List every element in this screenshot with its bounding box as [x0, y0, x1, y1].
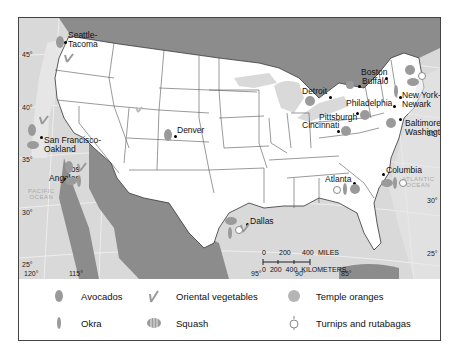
latitude-label: 35° [22, 156, 33, 163]
legend-label: Temple oranges [316, 291, 384, 302]
scale-tick: 0 [262, 249, 266, 256]
oriental-vegetables-icon [144, 289, 164, 303]
oriental-vegetables-icon [65, 54, 73, 62]
avocado-icon [164, 129, 172, 141]
avocado-icon [28, 124, 36, 136]
legend: Avocados Okra Oriental vegetables Squash… [18, 279, 441, 341]
squash-icon [27, 141, 39, 149]
latitude-label: 25° [22, 261, 33, 268]
pacific-ocean-label: PACIFICOCEAN [28, 188, 55, 200]
oriental-vegetables-icon [136, 107, 142, 112]
map-panel: Seattle-Tacoma San Francisco-Oakland Los… [18, 17, 441, 280]
latitude-label: 25° [427, 250, 438, 257]
legend-item-squash: Squash [144, 316, 208, 330]
latitude-label: 30° [427, 197, 438, 204]
okra-icon [394, 85, 398, 97]
scale-tick: 400 [286, 266, 298, 273]
turnip-icon [236, 227, 243, 234]
squash-icon [144, 316, 164, 330]
temple-orange-icon [305, 96, 315, 106]
avocado-icon [49, 289, 69, 303]
longitude-label: 115° [69, 270, 83, 277]
legend-label: Avocados [81, 291, 123, 302]
okra-icon [393, 177, 397, 189]
squash-icon [381, 179, 393, 187]
temple-orange-icon [360, 110, 370, 120]
avocado-icon [56, 36, 64, 48]
okra-icon [49, 316, 69, 330]
squash-icon [65, 177, 77, 185]
turnip-icon [334, 187, 341, 194]
legend-label: Turnips and rutabagas [316, 318, 411, 329]
legend-item-oriental-vegetables: Oriental vegetables [144, 289, 258, 303]
scale-tick: 0 [262, 266, 266, 273]
latitude-label: 30° [22, 209, 33, 216]
temple-orange-icon [386, 118, 396, 128]
latitude-label: 45° [22, 51, 33, 58]
atlantic-ocean-label: ATLANTICOCEAN [402, 176, 435, 188]
temple-orange-icon [341, 126, 351, 136]
legend-label: Okra [81, 318, 102, 329]
okra-icon [343, 183, 347, 195]
temple-orange-icon [284, 289, 304, 303]
legend-label: Squash [176, 318, 208, 329]
squash-icon [407, 78, 419, 86]
oriental-vegetables-icon [40, 116, 48, 124]
legend-label: Oriental vegetables [176, 291, 258, 302]
scale-unit-km: KILOMETERS [301, 266, 346, 273]
latitude-label: 40° [22, 104, 33, 111]
latitude-label: 35° [427, 130, 438, 137]
turnip-icon [419, 73, 426, 80]
turnip-icon [284, 316, 304, 330]
scale-km: 0 200 400 KILOMETERS [262, 266, 346, 273]
legend-item-temple-oranges: Temple oranges [284, 289, 384, 303]
scale-line [262, 258, 322, 266]
temple-orange-icon [405, 65, 415, 75]
okra-icon [228, 227, 232, 239]
oriental-vegetables-icon [78, 163, 86, 171]
ocean-label-line: OCEAN [29, 194, 53, 200]
longitude-label: 95° [251, 270, 262, 277]
scale-tick: 400 [302, 249, 314, 256]
avocado-icon [65, 161, 73, 173]
legend-item-avocados: Avocados [49, 289, 123, 303]
longitude-label: 120° [24, 270, 38, 277]
legend-item-okra: Okra [49, 316, 102, 330]
scale-unit-miles: MILES [318, 249, 339, 256]
scale-tick: 200 [279, 249, 291, 256]
temple-orange-icon [350, 184, 360, 194]
scale-tick: 200 [270, 266, 282, 273]
ocean-label-line: OCEAN [406, 182, 430, 188]
crop-icons-layer [19, 18, 440, 279]
okra-icon [77, 175, 81, 187]
legend-item-turnips-rutabagas: Turnips and rutabagas [284, 316, 411, 330]
squash-icon [225, 217, 237, 225]
temple-orange-icon [346, 81, 354, 89]
